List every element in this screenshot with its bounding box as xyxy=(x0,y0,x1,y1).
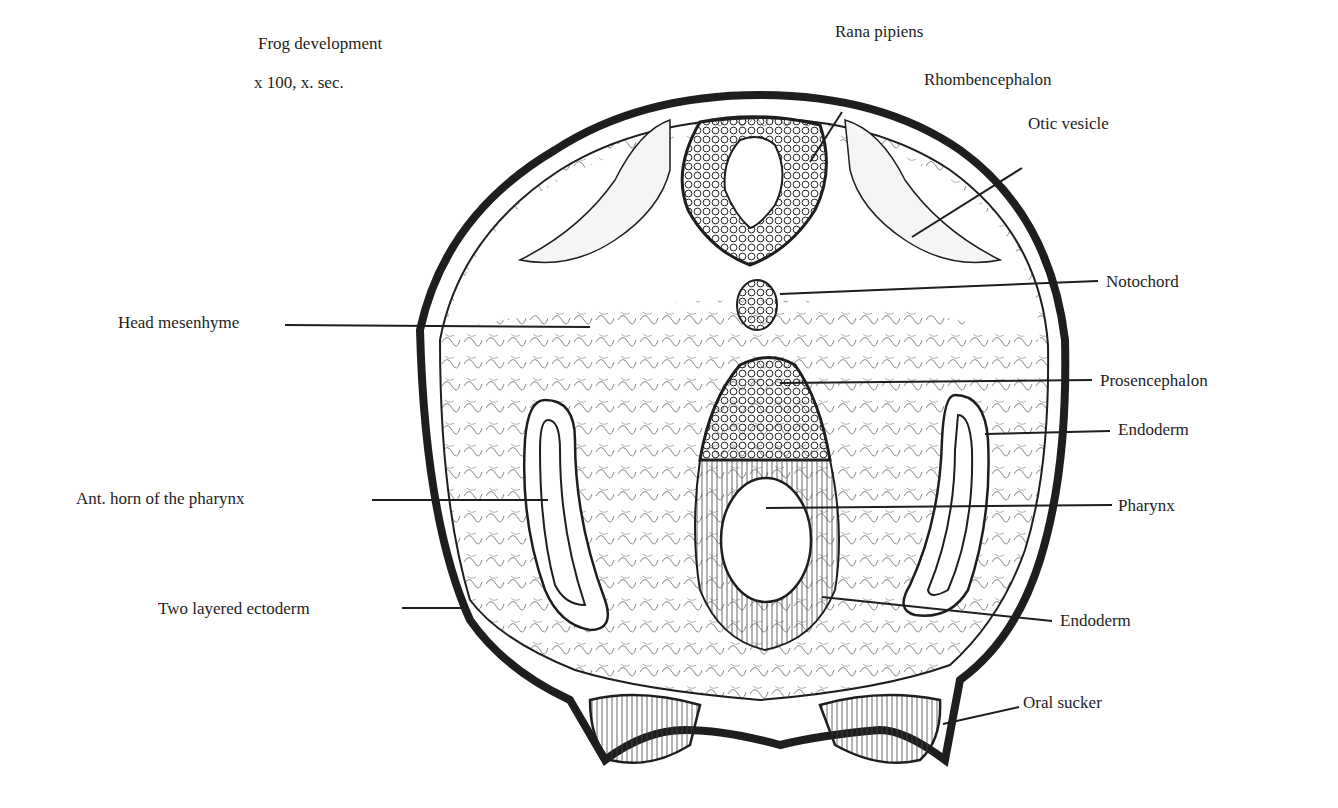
label-head-mesenhyme: Head mesenhyme xyxy=(118,314,239,331)
diagram-title: Frog development xyxy=(258,35,382,52)
label-oral-sucker: Oral sucker xyxy=(1023,694,1102,711)
notochord-shape xyxy=(737,280,777,330)
label-rhombencephalon: Rhombencephalon xyxy=(924,71,1051,88)
label-pharynx: Pharynx xyxy=(1118,497,1175,514)
label-notochord: Notochord xyxy=(1106,273,1179,290)
pharynx-lumen xyxy=(721,478,811,602)
species-label: Rana pipiens xyxy=(835,23,923,40)
oral-sucker-right xyxy=(820,695,940,763)
label-prosencephalon: Prosencephalon xyxy=(1100,372,1208,389)
label-two-layered-ectoderm: Two layered ectoderm xyxy=(158,600,310,617)
magnification-note: x 100, x. sec. xyxy=(254,74,344,91)
oral-sucker-left xyxy=(590,695,700,763)
label-endoderm-upper: Endoderm xyxy=(1118,421,1189,438)
label-ant-horn-of-pharynx: Ant. horn of the pharynx xyxy=(76,490,245,507)
label-otic-vesicle: Otic vesicle xyxy=(1028,115,1109,132)
label-endoderm-lower: Endoderm xyxy=(1060,612,1131,629)
embryo-cross-section-drawing xyxy=(0,0,1338,808)
